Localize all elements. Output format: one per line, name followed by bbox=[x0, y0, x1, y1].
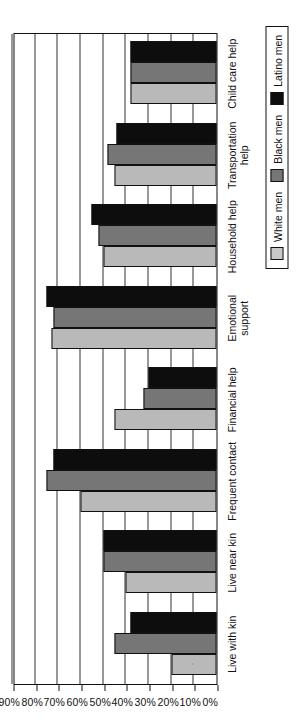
chart-legend: White menBlack menLatino men bbox=[265, 26, 288, 269]
bar bbox=[107, 144, 216, 165]
category-label: Frequent contact bbox=[226, 441, 238, 523]
latino-men-swatch bbox=[270, 92, 283, 105]
bar bbox=[114, 409, 216, 430]
bar bbox=[130, 41, 216, 62]
bar bbox=[53, 307, 216, 328]
bar-group bbox=[14, 286, 216, 349]
category-label: Household help bbox=[226, 196, 238, 278]
tick-mark-10% bbox=[194, 685, 195, 691]
bar bbox=[130, 83, 216, 104]
plot-area bbox=[13, 33, 217, 685]
bar-chart-figure: 90%80%70%60%50%40%30%20%10%0% Live with … bbox=[0, 0, 305, 728]
value-tick-label: 40% bbox=[111, 696, 132, 708]
legend-label: Latino men bbox=[271, 35, 283, 87]
legend-label: Black men bbox=[271, 115, 283, 164]
value-tick-label: 50% bbox=[89, 696, 110, 708]
bar bbox=[116, 123, 216, 144]
bar bbox=[53, 449, 216, 470]
tick-mark-50% bbox=[104, 685, 105, 691]
category-label: Child care help bbox=[226, 33, 238, 115]
white-men-swatch bbox=[270, 247, 283, 260]
value-tick-label: 70% bbox=[43, 696, 64, 708]
gridline-90% bbox=[11, 34, 12, 684]
tick-mark-90% bbox=[13, 685, 14, 691]
tick-mark-60% bbox=[81, 685, 82, 691]
bar bbox=[91, 204, 216, 225]
tick-mark-70% bbox=[58, 685, 59, 691]
legend-item: Black men bbox=[270, 115, 283, 182]
value-tick-label: 90% bbox=[0, 696, 19, 708]
tick-mark-0% bbox=[217, 685, 218, 691]
bar bbox=[130, 62, 216, 83]
bar bbox=[125, 572, 216, 593]
bar bbox=[98, 225, 216, 246]
bar bbox=[114, 165, 216, 186]
bar-group bbox=[14, 530, 216, 593]
bar bbox=[103, 530, 216, 551]
category-label: Live with kin bbox=[226, 604, 238, 686]
category-label: Emotional support bbox=[226, 278, 249, 360]
value-tick-label: 20% bbox=[157, 696, 178, 708]
bar bbox=[143, 388, 216, 409]
value-tick-label: 0% bbox=[202, 696, 217, 708]
scan-artifact-speck bbox=[191, 663, 193, 665]
black-men-swatch bbox=[270, 169, 283, 182]
bar bbox=[80, 491, 216, 512]
tick-mark-40% bbox=[126, 685, 127, 691]
tick-mark-80% bbox=[36, 685, 37, 691]
bar-group bbox=[14, 449, 216, 512]
value-tick-label: 60% bbox=[66, 696, 87, 708]
bar bbox=[51, 328, 216, 349]
value-tick-label: 10% bbox=[179, 696, 200, 708]
value-tick-label: 30% bbox=[134, 696, 155, 708]
chart-figure-rotor: 90%80%70%60%50%40%30%20%10%0% Live with … bbox=[0, 0, 305, 728]
bar bbox=[46, 470, 216, 491]
tick-mark-20% bbox=[172, 685, 173, 691]
tick-mark-30% bbox=[149, 685, 150, 691]
legend-item: White men bbox=[270, 192, 283, 260]
bar-group bbox=[14, 367, 216, 430]
value-tick-label: 80% bbox=[21, 696, 42, 708]
legend-item: Latino men bbox=[270, 35, 283, 105]
bar bbox=[103, 551, 216, 572]
bar-group bbox=[14, 41, 216, 104]
bar bbox=[46, 286, 216, 307]
bar-group bbox=[14, 204, 216, 267]
bar bbox=[130, 612, 216, 633]
legend-label: White men bbox=[271, 192, 283, 242]
bar bbox=[148, 367, 216, 388]
bar bbox=[114, 633, 216, 654]
category-label: Financial help bbox=[226, 359, 238, 441]
category-label: Transportation help bbox=[226, 115, 249, 197]
bar bbox=[103, 246, 216, 267]
bar-group bbox=[14, 612, 216, 675]
category-label: Live near kin bbox=[226, 522, 238, 604]
bar-group bbox=[14, 123, 216, 186]
